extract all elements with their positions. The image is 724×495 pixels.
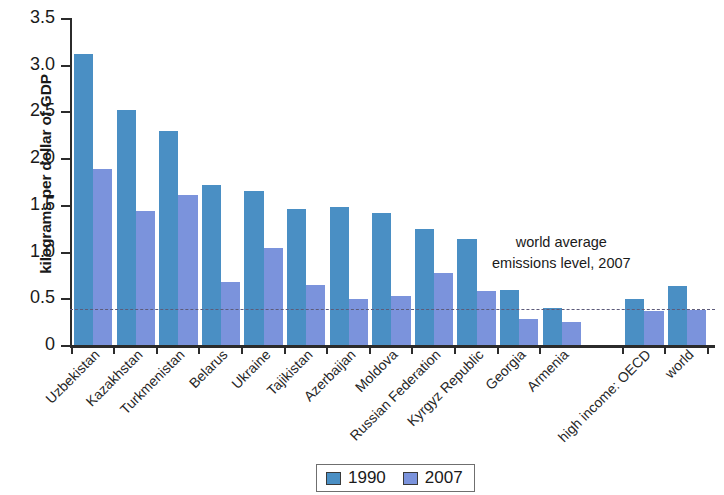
x-axis-tick	[664, 345, 666, 354]
x-axis-tick	[241, 345, 243, 354]
y-axis-tick-label: 2.0	[30, 147, 55, 168]
bar-1990	[244, 191, 263, 345]
y-axis-tick: 3.0	[61, 65, 70, 67]
bar-2007	[687, 310, 706, 345]
legend-swatch-icon-2007	[403, 472, 418, 485]
world-average-dashed-line	[70, 309, 715, 310]
x-axis-tick	[156, 345, 158, 354]
bar-1990	[625, 299, 644, 345]
bar-2007	[136, 211, 155, 345]
bar-2007	[391, 296, 410, 345]
legend-item-2007[interactable]: 2007	[403, 468, 463, 488]
x-axis-label: high income: OECD	[561, 352, 660, 451]
x-axis-label: Armenia	[529, 352, 577, 400]
bar-1990	[159, 131, 178, 345]
bar-1990	[457, 239, 476, 345]
bar-2007	[519, 319, 538, 345]
bar-2007	[264, 248, 283, 345]
x-axis-label-text: world	[662, 346, 697, 381]
bar-1990	[415, 229, 434, 345]
y-axis-tick: 2.5	[61, 111, 70, 113]
bar-2007	[644, 311, 663, 345]
y-axis-tick-label: 2.5	[30, 100, 55, 121]
x-axis-label-text: Georgia	[482, 346, 529, 393]
x-axis-tick	[539, 345, 541, 354]
bar-2007	[349, 299, 368, 345]
y-axis-tick: 3.5	[61, 18, 70, 20]
y-axis-tick: 2.0	[61, 158, 70, 160]
y-axis-tick: 0.5	[61, 298, 70, 300]
x-axis-tick	[454, 345, 456, 354]
bar-2007	[178, 195, 197, 345]
y-axis-tick-label: 0	[45, 334, 55, 355]
legend-swatch-icon-1990	[326, 472, 341, 485]
y-axis-tick: 1.0	[61, 252, 70, 254]
bar-2007	[306, 285, 325, 345]
bar-1990	[500, 290, 519, 345]
x-axis-tick	[369, 345, 371, 354]
y-axis-tick-label: 1.5	[30, 194, 55, 215]
bar-1990	[668, 286, 687, 345]
x-axis-tick	[497, 345, 499, 354]
bar-1990	[117, 110, 136, 345]
legend-label-2007: 2007	[425, 468, 463, 488]
bar-1990	[287, 209, 306, 345]
bar-2007	[221, 282, 240, 345]
x-axis-line	[70, 345, 715, 348]
x-axis-label-text: Belarus	[186, 346, 231, 391]
y-axis-tick-label: 1.0	[30, 241, 55, 262]
legend-label-1990: 1990	[348, 468, 386, 488]
x-axis-tick	[411, 345, 413, 354]
y-axis-tick: 0	[61, 345, 70, 347]
bar-1990	[543, 308, 562, 345]
plot-area: 3.53.02.52.01.51.00.50	[70, 18, 715, 345]
x-axis-tick	[284, 345, 286, 354]
y-axis-line	[70, 18, 72, 345]
legend-item-1990[interactable]: 1990	[326, 468, 386, 488]
bar-1990	[330, 207, 349, 345]
x-axis-label: Georgia	[488, 352, 535, 399]
bar-1990	[74, 54, 93, 345]
y-axis-tick-label: 3.5	[30, 7, 55, 28]
bar-2007	[93, 169, 112, 345]
x-axis-tick	[707, 345, 709, 354]
y-axis-tick: 1.5	[61, 205, 70, 207]
x-axis-label-text: Armenia	[523, 346, 571, 394]
x-axis-tick	[71, 345, 73, 354]
emissions-intensity-bar-chart: kilograms per dollar of GDP 3.53.02.52.0…	[0, 0, 724, 495]
annotation-line-1: world average	[492, 232, 631, 253]
bar-1990	[202, 185, 221, 345]
x-axis-tick	[622, 345, 624, 354]
bar-2007	[477, 291, 496, 345]
x-axis-tick	[326, 345, 328, 354]
bar-2007	[562, 322, 581, 345]
bar-1990	[372, 213, 391, 345]
world-average-annotation: world average emissions level, 2007	[492, 232, 631, 274]
y-axis-tick-label: 3.0	[30, 54, 55, 75]
x-axis-tick	[198, 345, 200, 354]
chart-legend: 1990 2007	[316, 464, 475, 492]
x-axis-label: world	[667, 352, 702, 387]
x-axis-tick	[113, 345, 115, 354]
y-axis-tick-label: 0.5	[30, 287, 55, 308]
annotation-line-2: emissions level, 2007	[492, 253, 631, 274]
x-axis-label: Belarus	[191, 352, 236, 397]
